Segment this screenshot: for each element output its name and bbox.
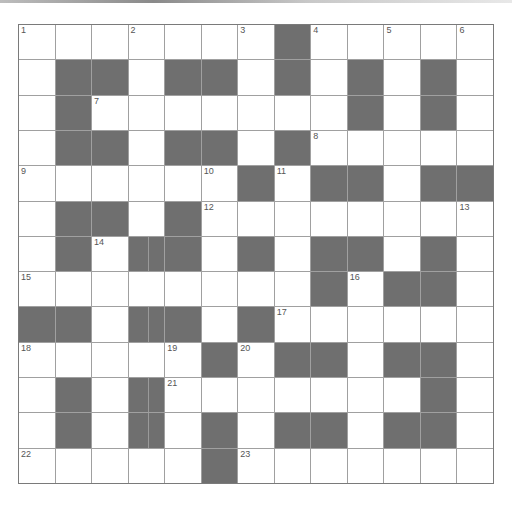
answer-cell[interactable] [384,96,420,130]
answer-cell[interactable]: 13 [457,202,493,236]
answer-cell[interactable]: 4 [311,25,347,59]
answer-cell[interactable] [348,413,384,447]
answer-cell[interactable] [275,237,311,271]
answer-cell[interactable] [384,237,420,271]
answer-cell[interactable] [129,202,165,236]
answer-cell[interactable] [56,272,92,306]
answer-cell[interactable] [348,343,384,377]
answer-cell[interactable] [129,60,165,94]
answer-cell[interactable] [165,272,201,306]
answer-cell[interactable]: 21 [165,378,201,412]
answer-cell[interactable] [275,272,311,306]
answer-cell[interactable] [165,96,201,130]
answer-cell[interactable] [384,307,420,341]
answer-cell[interactable] [311,449,347,483]
answer-cell[interactable]: 6 [457,25,493,59]
answer-cell[interactable] [165,413,201,447]
answer-cell[interactable] [202,272,238,306]
answer-cell[interactable] [275,202,311,236]
answer-cell[interactable]: 1 [19,25,55,59]
answer-cell[interactable] [384,449,420,483]
answer-cell[interactable] [129,96,165,130]
answer-cell[interactable] [275,96,311,130]
answer-cell[interactable] [165,25,201,59]
answer-cell[interactable] [348,378,384,412]
answer-cell[interactable]: 11 [275,166,311,200]
answer-cell[interactable] [311,202,347,236]
answer-cell[interactable]: 17 [275,307,311,341]
answer-cell[interactable] [19,202,55,236]
answer-cell[interactable] [238,131,274,165]
answer-cell[interactable]: 20 [238,343,274,377]
answer-cell[interactable] [457,413,493,447]
answer-cell[interactable] [457,272,493,306]
answer-cell[interactable] [92,449,128,483]
answer-cell[interactable] [457,307,493,341]
answer-cell[interactable] [275,378,311,412]
answer-cell[interactable] [421,131,457,165]
answer-cell[interactable] [421,202,457,236]
answer-cell[interactable] [421,25,457,59]
answer-cell[interactable] [92,307,128,341]
answer-cell[interactable] [92,413,128,447]
answer-cell[interactable] [348,202,384,236]
answer-cell[interactable] [311,96,347,130]
answer-cell[interactable]: 9 [19,166,55,200]
answer-cell[interactable] [457,237,493,271]
answer-cell[interactable] [238,60,274,94]
answer-cell[interactable] [129,166,165,200]
answer-cell[interactable] [348,449,384,483]
answer-cell[interactable]: 19 [165,343,201,377]
answer-cell[interactable] [457,449,493,483]
answer-cell[interactable]: 14 [92,237,128,271]
answer-cell[interactable] [457,60,493,94]
answer-cell[interactable] [238,96,274,130]
answer-cell[interactable] [129,131,165,165]
answer-cell[interactable]: 5 [384,25,420,59]
answer-cell[interactable]: 2 [129,25,165,59]
answer-cell[interactable] [457,131,493,165]
answer-cell[interactable] [238,202,274,236]
answer-cell[interactable] [348,131,384,165]
answer-cell[interactable] [202,307,238,341]
answer-cell[interactable] [165,166,201,200]
answer-cell[interactable] [202,237,238,271]
answer-cell[interactable] [56,449,92,483]
answer-cell[interactable]: 8 [311,131,347,165]
answer-cell[interactable]: 16 [348,272,384,306]
answer-cell[interactable] [92,25,128,59]
answer-cell[interactable] [421,307,457,341]
answer-cell[interactable]: 10 [202,166,238,200]
answer-cell[interactable] [384,378,420,412]
answer-cell[interactable] [238,272,274,306]
answer-cell[interactable] [19,96,55,130]
answer-cell[interactable] [348,25,384,59]
answer-cell[interactable] [19,60,55,94]
answer-cell[interactable] [19,413,55,447]
answer-cell[interactable]: 7 [92,96,128,130]
answer-cell[interactable] [238,378,274,412]
answer-cell[interactable] [384,166,420,200]
answer-cell[interactable] [129,449,165,483]
answer-cell[interactable] [202,378,238,412]
answer-cell[interactable]: 18 [19,343,55,377]
answer-cell[interactable] [129,343,165,377]
answer-cell[interactable] [311,378,347,412]
answer-cell[interactable] [202,25,238,59]
answer-cell[interactable] [19,237,55,271]
answer-cell[interactable] [202,96,238,130]
answer-cell[interactable] [457,96,493,130]
answer-cell[interactable] [348,307,384,341]
answer-cell[interactable]: 22 [19,449,55,483]
answer-cell[interactable] [421,449,457,483]
answer-cell[interactable] [92,343,128,377]
answer-cell[interactable]: 3 [238,25,274,59]
answer-cell[interactable] [311,60,347,94]
answer-cell[interactable] [56,25,92,59]
answer-cell[interactable] [56,343,92,377]
answer-cell[interactable] [311,307,347,341]
answer-cell[interactable] [238,413,274,447]
answer-cell[interactable] [384,202,420,236]
answer-cell[interactable] [384,131,420,165]
answer-cell[interactable] [19,378,55,412]
